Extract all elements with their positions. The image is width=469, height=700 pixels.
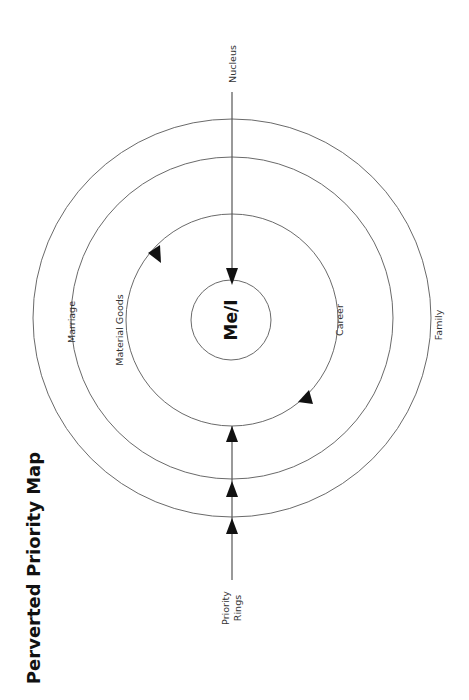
arrow-on-ring-lower-right-icon bbox=[298, 390, 313, 404]
priority-map-diagram: Marriage Material Goods Career Family Me… bbox=[0, 0, 469, 700]
page-title: Perverted Priority Map bbox=[23, 452, 44, 684]
ring-label-material-goods: Material Goods bbox=[114, 294, 125, 366]
nucleus-label: Nucleus bbox=[227, 45, 238, 83]
arrow-up-icon bbox=[226, 426, 238, 442]
priority-label-line2: Rings bbox=[232, 595, 243, 621]
ring-label-family: Family bbox=[433, 309, 444, 340]
priority-label-line1: Priority bbox=[220, 591, 231, 625]
ring-label-career: Career bbox=[334, 304, 345, 336]
arrow-up-icon bbox=[226, 518, 238, 534]
arrow-down-to-nucleus-icon bbox=[226, 268, 238, 285]
arrow-up-icon bbox=[226, 481, 238, 497]
ring-label-marriage: Marriage bbox=[66, 301, 77, 343]
center-label: Me/I bbox=[221, 300, 241, 341]
